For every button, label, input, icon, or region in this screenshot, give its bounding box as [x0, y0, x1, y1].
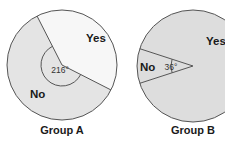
- angle-label: 36°: [165, 62, 178, 72]
- slice-label-no: No: [140, 61, 155, 73]
- angle-label: 216°: [51, 65, 69, 75]
- slice-label-yes: Yes: [86, 32, 106, 44]
- slice-label-yes: Yes: [206, 35, 225, 47]
- pie-group-b: 36°YesNo: [137, 10, 225, 122]
- pie-group-a: 216°YesNo: [7, 10, 117, 120]
- pie-chart-figure: 216°YesNo36°YesNo Group A Group B: [0, 0, 225, 146]
- slice-label-no: No: [30, 88, 45, 100]
- group-a-caption: Group A: [22, 124, 102, 136]
- group-b-caption: Group B: [153, 124, 225, 136]
